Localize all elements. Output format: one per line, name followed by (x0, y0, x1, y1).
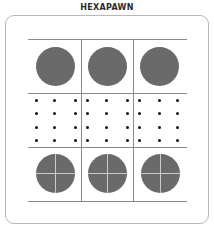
empty-dot-icon (138, 99, 141, 102)
empty-dot-icon (176, 99, 179, 102)
empty-dot-icon (158, 139, 161, 142)
empty-dot-icon (53, 112, 56, 115)
empty-dot-icon (74, 126, 77, 129)
empty-dot-icon (176, 139, 179, 142)
board-cell-1-0[interactable] (28, 94, 81, 147)
board-cell-2-0[interactable] (28, 148, 81, 201)
page-title: HEXAPAWN (0, 3, 214, 12)
player-pawn-icon[interactable] (36, 154, 75, 193)
empty-dot-icon (74, 99, 77, 102)
player-pawn-icon[interactable] (141, 154, 180, 193)
board-cell-0-2[interactable] (134, 40, 187, 93)
empty-dot-icon (74, 112, 77, 115)
empty-dot-icon (126, 112, 129, 115)
empty-dot-icon (53, 126, 56, 129)
empty-dot-icon (176, 126, 179, 129)
empty-dot-icon (126, 126, 129, 129)
empty-dot-icon (35, 139, 38, 142)
empty-dot-icon (158, 99, 161, 102)
empty-dot-icon (86, 112, 89, 115)
empty-dot-icon (126, 139, 129, 142)
empty-dot-icon (86, 139, 89, 142)
empty-dot-icon (138, 126, 141, 129)
opponent-pawn-icon[interactable] (88, 47, 127, 86)
opponent-pawn-icon[interactable] (36, 47, 75, 86)
empty-dot-icon (53, 99, 56, 102)
empty-dot-icon (158, 126, 161, 129)
empty-dot-icon (105, 139, 108, 142)
board-cell-2-1[interactable] (82, 148, 133, 201)
empty-dot-icon (158, 112, 161, 115)
empty-dot-icon (86, 126, 89, 129)
opponent-pawn-icon[interactable] (140, 47, 179, 86)
empty-dot-icon (105, 112, 108, 115)
empty-dot-icon (138, 139, 141, 142)
empty-dot-icon (138, 112, 141, 115)
board-cell-2-2[interactable] (134, 148, 187, 201)
empty-dot-icon (86, 99, 89, 102)
board-cell-1-2[interactable] (134, 94, 187, 147)
grid-line-bottom (28, 201, 187, 202)
empty-dot-icon (35, 112, 38, 115)
player-pawn-icon[interactable] (88, 154, 127, 193)
empty-dot-icon (105, 99, 108, 102)
empty-dot-icon (74, 139, 77, 142)
empty-dot-icon (105, 126, 108, 129)
board-cell-1-1[interactable] (82, 94, 133, 147)
board-cell-0-1[interactable] (82, 40, 133, 93)
board-cell-0-0[interactable] (28, 40, 81, 93)
empty-dot-icon (126, 99, 129, 102)
empty-dot-icon (53, 139, 56, 142)
empty-dot-icon (35, 99, 38, 102)
empty-dot-icon (35, 126, 38, 129)
empty-dot-icon (176, 112, 179, 115)
